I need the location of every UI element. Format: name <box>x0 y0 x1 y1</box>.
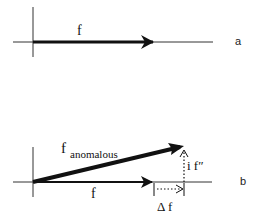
panel-b-delta-label: Δ f <box>157 199 173 214</box>
panel-b-imag-label: i f″ <box>187 158 204 173</box>
panel-b-label: b <box>240 175 246 187</box>
panel-b-anomalous-label: f <box>61 140 66 156</box>
panel-b-anomalous-label-main: f <box>61 140 66 156</box>
panel-b-anomalous-label-sub: anomalous <box>70 148 118 160</box>
panel-b-f-label: f <box>91 186 96 201</box>
panel-b: f anomalous f i f″ Δ f b <box>13 140 246 214</box>
panel-a-f-label: f <box>77 23 82 38</box>
panel-a-label: a <box>235 35 242 47</box>
scattering-factor-diagram: f a f anomalous f i f″ Δ f b <box>0 0 255 220</box>
panel-a: f a <box>13 7 242 57</box>
